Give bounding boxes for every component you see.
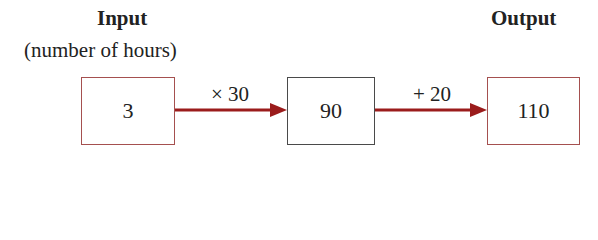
output-box: 110: [487, 77, 580, 145]
output-value: 110: [517, 98, 549, 124]
middle-value: 90: [320, 98, 342, 124]
middle-box: 90: [287, 77, 375, 145]
input-value: 3: [123, 98, 134, 124]
input-box: 3: [81, 77, 175, 145]
operation-multiply-label: × 30: [190, 82, 270, 107]
operation-add-label: + 20: [392, 82, 472, 107]
